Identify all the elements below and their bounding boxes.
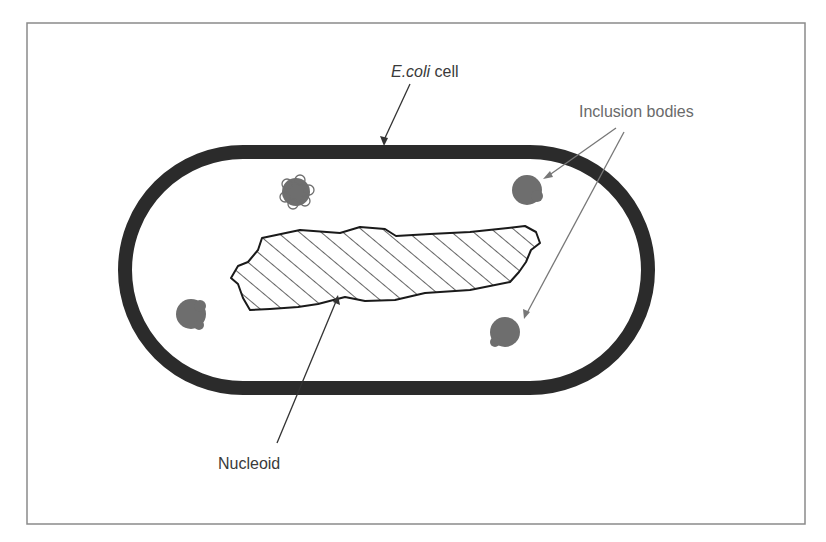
nucleoid-label: Nucleoid [218, 455, 280, 472]
nucleoid-region [231, 226, 540, 310]
ecoli-diagram: E.coli cell Inclusion bodies Nucleoid [0, 0, 826, 542]
inclusion-body-top-right [512, 175, 543, 205]
inclusion-body-bottom-left [176, 299, 206, 330]
nucleoid-leader-line [277, 295, 340, 443]
cell-label: E.coli cell [391, 63, 459, 80]
cell-leader-line [380, 84, 410, 146]
inclusion-bodies-label: Inclusion bodies [579, 103, 694, 120]
inclusion-body-bottom-right [490, 317, 520, 347]
inclusion-body-top-left [280, 175, 314, 209]
cell-label-rest: cell [430, 63, 458, 80]
cell-label-italic: E.coli [391, 63, 431, 80]
